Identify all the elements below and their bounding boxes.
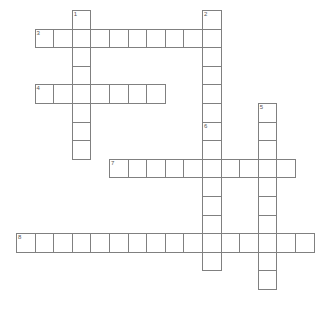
crossword-cell[interactable]: 7 — [109, 159, 129, 179]
crossword-cell[interactable] — [276, 159, 296, 179]
crossword-cell[interactable] — [258, 233, 278, 253]
crossword-cell[interactable] — [35, 233, 55, 253]
crossword-cell[interactable] — [53, 233, 73, 253]
crossword-cell[interactable] — [276, 233, 296, 253]
crossword-cell[interactable] — [72, 47, 92, 67]
cell-letter — [259, 234, 277, 252]
crossword-cell[interactable] — [146, 159, 166, 179]
cell-letter — [222, 234, 240, 252]
cell-letter — [259, 178, 277, 196]
crossword-cell[interactable] — [165, 159, 185, 179]
cell-letter — [129, 85, 147, 103]
crossword-cell[interactable] — [53, 84, 73, 104]
cell-letter — [203, 67, 221, 85]
crossword-cell[interactable] — [258, 252, 278, 272]
crossword-cell[interactable] — [202, 233, 222, 253]
crossword-cell[interactable] — [183, 29, 203, 49]
crossword-cell[interactable] — [72, 29, 92, 49]
crossword-cell[interactable] — [202, 66, 222, 86]
crossword-cell[interactable] — [128, 159, 148, 179]
crossword-cell[interactable] — [72, 140, 92, 160]
cell-letter — [129, 234, 147, 252]
crossword-cell[interactable] — [202, 103, 222, 123]
cell-letter — [36, 30, 54, 48]
crossword-cell[interactable] — [202, 29, 222, 49]
cell-letter — [184, 234, 202, 252]
crossword-cell[interactable] — [109, 233, 129, 253]
crossword-cell[interactable] — [72, 66, 92, 86]
cell-letter — [166, 160, 184, 178]
cell-letter — [259, 160, 277, 178]
cell-letter — [259, 104, 277, 122]
crossword-cell[interactable] — [202, 84, 222, 104]
crossword-cell[interactable] — [165, 233, 185, 253]
crossword-cell[interactable] — [258, 159, 278, 179]
cell-letter — [259, 253, 277, 271]
crossword-cell[interactable] — [53, 29, 73, 49]
cell-letter — [203, 30, 221, 48]
crossword-cell[interactable] — [90, 233, 110, 253]
crossword-cell[interactable]: 6 — [202, 122, 222, 142]
crossword-cell[interactable] — [109, 84, 129, 104]
crossword-cell[interactable] — [202, 177, 222, 197]
crossword-cell[interactable] — [183, 159, 203, 179]
cell-letter — [259, 141, 277, 159]
crossword-cell[interactable] — [295, 233, 315, 253]
crossword-cell[interactable] — [202, 215, 222, 235]
crossword-cell[interactable] — [90, 29, 110, 49]
crossword-cell[interactable] — [72, 103, 92, 123]
cell-letter — [222, 160, 240, 178]
crossword-cell[interactable] — [72, 122, 92, 142]
crossword-cell[interactable] — [258, 215, 278, 235]
crossword-cell[interactable] — [109, 29, 129, 49]
cell-letter — [203, 178, 221, 196]
crossword-grid[interactable]: 12345678 — [0, 0, 325, 313]
cell-letter — [110, 85, 128, 103]
crossword-cell[interactable] — [258, 140, 278, 160]
crossword-cell[interactable] — [146, 29, 166, 49]
crossword-cell[interactable] — [128, 84, 148, 104]
crossword-cell[interactable] — [72, 84, 92, 104]
crossword-cell[interactable] — [202, 47, 222, 67]
cell-letter — [91, 85, 109, 103]
cell-letter — [54, 85, 72, 103]
crossword-cell[interactable] — [202, 252, 222, 272]
crossword-cell[interactable] — [146, 233, 166, 253]
cell-letter — [73, 30, 91, 48]
crossword-cell[interactable]: 3 — [35, 29, 55, 49]
cell-letter — [184, 160, 202, 178]
crossword-cell[interactable] — [202, 140, 222, 160]
cell-letter — [73, 85, 91, 103]
crossword-cell[interactable] — [90, 84, 110, 104]
crossword-cell[interactable] — [239, 233, 259, 253]
crossword-cell[interactable] — [202, 159, 222, 179]
cell-letter — [184, 30, 202, 48]
crossword-cell[interactable] — [221, 159, 241, 179]
cell-letter — [203, 85, 221, 103]
crossword-cell[interactable] — [202, 196, 222, 216]
crossword-cell[interactable]: 4 — [35, 84, 55, 104]
crossword-cell[interactable] — [146, 84, 166, 104]
crossword-cell[interactable] — [128, 29, 148, 49]
cell-letter — [277, 234, 295, 252]
crossword-cell[interactable]: 8 — [16, 233, 36, 253]
cell-letter — [240, 160, 258, 178]
cell-letter — [110, 160, 128, 178]
crossword-cell[interactable] — [72, 233, 92, 253]
crossword-cell[interactable]: 5 — [258, 103, 278, 123]
cell-letter — [277, 160, 295, 178]
crossword-cell[interactable] — [165, 29, 185, 49]
crossword-cell[interactable]: 2 — [202, 10, 222, 30]
crossword-cell[interactable] — [258, 177, 278, 197]
crossword-cell[interactable] — [128, 233, 148, 253]
crossword-cell[interactable] — [258, 122, 278, 142]
crossword-cell[interactable] — [258, 196, 278, 216]
crossword-cell[interactable]: 1 — [72, 10, 92, 30]
crossword-cell[interactable] — [183, 233, 203, 253]
crossword-cell[interactable] — [221, 233, 241, 253]
cell-letter — [73, 11, 91, 29]
cell-letter — [147, 160, 165, 178]
crossword-cell[interactable] — [239, 159, 259, 179]
cell-letter — [203, 123, 221, 141]
crossword-cell[interactable] — [258, 270, 278, 290]
